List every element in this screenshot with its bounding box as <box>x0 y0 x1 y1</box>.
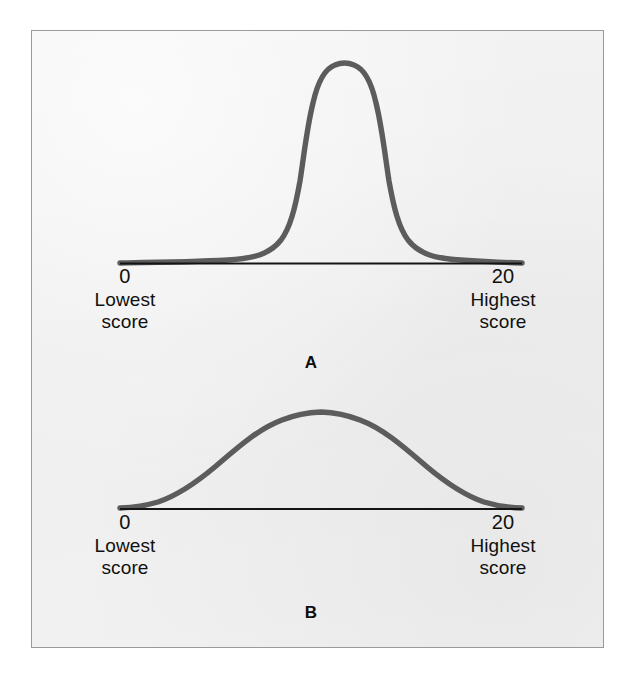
axis-desc-right-line2-a: score <box>443 311 563 333</box>
figure-frame: 0 Lowest score 20 Highest score A 0 Lowe… <box>31 30 604 648</box>
axis-tick-right-a: 20 <box>443 265 563 289</box>
axis-label-right-a: 20 Highest score <box>443 265 563 333</box>
axis-label-right-b: 20 Highest score <box>443 511 563 579</box>
axis-label-left-a: 0 Lowest score <box>65 265 185 333</box>
axis-desc-left-line2-a: score <box>65 311 185 333</box>
axis-tick-left-a: 0 <box>65 265 185 289</box>
axis-desc-right-line2-b: score <box>443 557 563 579</box>
axis-desc-right-line1-b: Highest <box>443 535 563 557</box>
axis-tick-left-b: 0 <box>65 511 185 535</box>
axis-desc-left-line2-b: score <box>65 557 185 579</box>
axis-desc-left-line1-b: Lowest <box>65 535 185 557</box>
panel-caption-b: B <box>281 603 341 623</box>
panel-caption-a: A <box>281 353 341 373</box>
axis-label-left-b: 0 Lowest score <box>65 511 185 579</box>
axis-desc-left-line1-a: Lowest <box>65 289 185 311</box>
bell-curve-a-path <box>120 63 522 263</box>
bell-curve-b-path <box>120 412 522 508</box>
axis-desc-right-line1-a: Highest <box>443 289 563 311</box>
axis-tick-right-b: 20 <box>443 511 563 535</box>
